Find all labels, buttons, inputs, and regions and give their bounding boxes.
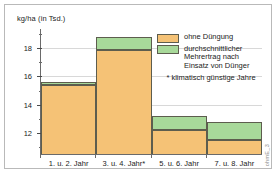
x-tick: [40, 154, 41, 158]
bar-segment-orange[interactable]: [41, 85, 96, 155]
legend-label-line-3: Einsatz von Dünger: [184, 61, 249, 70]
credit-watermark: ohmE_3: [264, 144, 270, 166]
y-tick-label: 12: [24, 129, 32, 138]
legend-item-mehrertrag: durchschnittlicher Mehrertrag nach Einsa…: [157, 45, 269, 71]
y-tick-label: 16: [24, 72, 32, 81]
legend-label-multiline: durchschnittlicher Mehrertrag nach Einsa…: [184, 45, 249, 71]
x-tick: [206, 154, 207, 158]
chart-frame: kg/ha (in Tsd.) 18 16 14 12: [4, 4, 272, 169]
bar-segment-green[interactable]: [207, 122, 262, 140]
bar-group-1[interactable]: 1. u. 2. Jahr: [41, 29, 96, 154]
y-tick-label: 14: [24, 101, 32, 110]
bar-segment-orange[interactable]: [96, 50, 151, 154]
x-tick: [95, 154, 96, 158]
x-axis-label: 3. u. 4. Jahr*: [103, 159, 146, 168]
bar-segment-orange[interactable]: [152, 130, 207, 154]
x-axis-label: 7. u. 8. Jahr: [215, 159, 255, 168]
bar-group-2[interactable]: 3. u. 4. Jahr*: [96, 29, 151, 154]
x-tick: [151, 154, 152, 158]
x-axis-label: 5. u. 6. Jahr: [159, 159, 199, 168]
bar-segment-green[interactable]: [152, 116, 207, 130]
legend-swatch-green-icon: [157, 45, 179, 54]
legend-label: ohne Düngung: [184, 33, 233, 42]
legend: ohne Düngung durchschnittlicher Mehrertr…: [157, 33, 269, 82]
legend-swatch-orange-icon: [157, 34, 179, 43]
legend-footnote: * klimatisch günstige Jahre: [157, 73, 269, 82]
y-tick-label: 18: [24, 44, 32, 53]
bar-segment-orange[interactable]: [207, 140, 262, 154]
bar-segment-green[interactable]: [96, 37, 151, 51]
legend-item-ohne-duengung: ohne Düngung: [157, 33, 269, 43]
y-axis-title: kg/ha (in Tsd.): [17, 14, 65, 23]
x-axis-label: 1. u. 2. Jahr: [49, 159, 89, 168]
